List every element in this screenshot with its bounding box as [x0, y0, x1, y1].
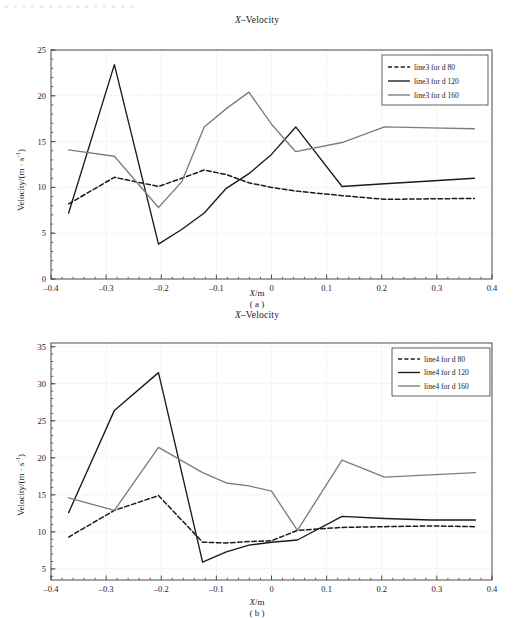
- chart-a-ylabel-exp: -1: [14, 152, 21, 157]
- svg-text:20: 20: [38, 453, 47, 463]
- svg-text:0.3: 0.3: [432, 584, 443, 594]
- page-header-fragment: ▫ ▫ ▫ ▫ ▫ ▫ ▫ ▫ ▫ ▫ ▫ ▫ ▫ ▫ ▫: [0, 0, 514, 13]
- chart-b-plot: –0.4–0.3–0.2–0.100.10.20.30.451015202530…: [0, 310, 514, 616]
- chart-b-ylabel: Velocity/(m · s-1): [14, 454, 26, 516]
- chart-a-xlabel-unit: /m: [255, 288, 265, 298]
- svg-text:15: 15: [38, 137, 47, 147]
- svg-text:25: 25: [38, 416, 47, 426]
- figure-b: X–Velocity –0.4–0.3–0.2–0.100.10.20.30.4…: [0, 310, 514, 616]
- svg-text:line3 for d 80: line3 for d 80: [414, 63, 455, 72]
- chart-a-caption: ( a ): [0, 299, 514, 309]
- svg-text:–0.3: –0.3: [98, 584, 114, 594]
- chart-b-caption: ( b ): [0, 608, 514, 618]
- chart-a-ylabel-tail: ): [16, 149, 26, 152]
- svg-text:line4 for d 80: line4 for d 80: [424, 355, 465, 364]
- chart-a-ylabel: Velocity/(m · s-1): [14, 149, 26, 211]
- svg-text:30: 30: [38, 379, 47, 389]
- svg-text:0: 0: [42, 274, 46, 284]
- svg-text:line3 for d 120: line3 for d 120: [414, 77, 459, 86]
- svg-text:–0.1: –0.1: [208, 584, 224, 594]
- svg-text:5: 5: [42, 564, 46, 574]
- chart-a-xlabel: X/m: [0, 288, 514, 298]
- svg-text:–0.2: –0.2: [153, 584, 169, 594]
- svg-text:0.2: 0.2: [376, 584, 387, 594]
- svg-text:0.1: 0.1: [321, 584, 332, 594]
- svg-text:15: 15: [38, 490, 47, 500]
- svg-text:line4 for d 160: line4 for d 160: [424, 382, 469, 391]
- chart-b-xlabel-unit: /m: [255, 597, 265, 607]
- svg-text:–0.4: –0.4: [43, 584, 60, 594]
- svg-text:10: 10: [38, 527, 47, 537]
- chart-b-ylabel-tail: ): [16, 454, 26, 457]
- figure-a: X–Velocity –0.4–0.3–0.2–0.100.10.20.30.4…: [0, 15, 514, 307]
- svg-text:line4 for d 120: line4 for d 120: [424, 368, 469, 377]
- chart-a-plot: –0.4–0.3–0.2–0.100.10.20.30.40510152025l…: [0, 15, 514, 307]
- svg-text:line3 for d 160: line3 for d 160: [414, 91, 459, 100]
- svg-text:20: 20: [38, 91, 47, 101]
- chart-b-ylabel-exp: -1: [14, 457, 21, 462]
- svg-text:35: 35: [38, 342, 47, 352]
- svg-text:0: 0: [269, 584, 273, 594]
- svg-text:0.4: 0.4: [487, 584, 498, 594]
- chart-b-xlabel: X/m: [0, 597, 514, 607]
- chart-b-ylabel-main: Velocity/(m · s: [16, 463, 26, 517]
- chart-a-ylabel-main: Velocity/(m · s: [16, 158, 26, 212]
- svg-text:5: 5: [42, 228, 46, 238]
- svg-text:25: 25: [38, 45, 47, 55]
- svg-text:10: 10: [38, 182, 47, 192]
